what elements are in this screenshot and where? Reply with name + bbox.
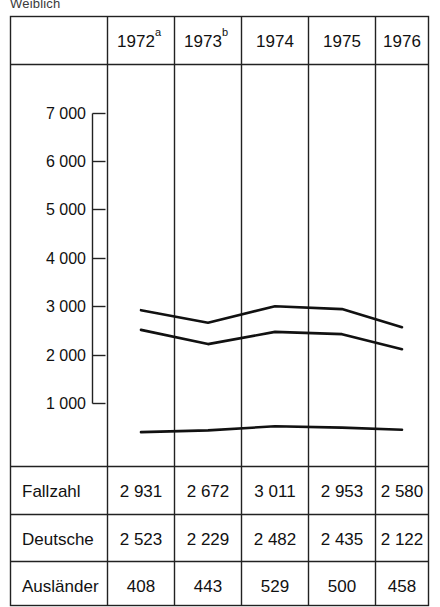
table-row-auslaender: 408 443 529 500 458 xyxy=(127,577,416,596)
header-year-1975: 1975 xyxy=(323,32,361,51)
cell-fallzahl-1976: 2 580 xyxy=(381,482,424,501)
cell-auslaender-1972: 408 xyxy=(127,577,155,596)
cell-fallzahl-1973: 2 672 xyxy=(187,482,230,501)
cell-deutsche-1972: 2 523 xyxy=(120,530,163,549)
header-year-1974: 1974 xyxy=(256,32,294,51)
row-label-fallzahl: Fallzahl xyxy=(22,482,81,501)
series-line-fallzahl xyxy=(141,306,402,327)
cell-auslaender-1975: 500 xyxy=(328,577,356,596)
cell-auslaender-1976: 458 xyxy=(388,577,416,596)
cell-deutsche-1975: 2 435 xyxy=(321,530,364,549)
y-label-2000: 2 000 xyxy=(46,347,86,364)
y-label-5000: 5 000 xyxy=(46,201,86,218)
chart-y-tick-labels: 7 000 6 000 5 000 4 000 3 000 2 000 1 00… xyxy=(46,105,86,412)
header-year-1973: 1973 xyxy=(184,32,222,51)
y-label-3000: 3 000 xyxy=(46,298,86,315)
header-footnote-1972: a xyxy=(155,26,162,38)
table-row-deutsche: 2 523 2 229 2 482 2 435 2 122 xyxy=(120,530,424,549)
cell-auslaender-1974: 529 xyxy=(261,577,289,596)
chart-y-axis xyxy=(93,114,106,404)
header-footnote-1973: b xyxy=(222,26,228,38)
cell-fallzahl-1974: 3 011 xyxy=(254,482,295,501)
chart-series-lines xyxy=(141,306,402,432)
y-label-4000: 4 000 xyxy=(46,250,86,267)
figure-canvas: 1972 a 1973 b 1974 1975 1976 7 000 6 000… xyxy=(0,0,440,607)
cell-fallzahl-1975: 2 953 xyxy=(321,482,364,501)
y-label-7000: 7 000 xyxy=(46,105,86,122)
cell-deutsche-1973: 2 229 xyxy=(187,530,230,549)
header-year-1976: 1976 xyxy=(383,32,421,51)
table-row-labels: Fallzahl Deutsche Ausländer xyxy=(22,482,99,596)
header-year-1972: 1972 xyxy=(117,32,155,51)
cell-auslaender-1973: 443 xyxy=(194,577,222,596)
y-label-6000: 6 000 xyxy=(46,153,86,170)
y-label-1000: 1 000 xyxy=(46,395,86,412)
row-label-deutsche: Deutsche xyxy=(22,530,94,549)
cell-deutsche-1974: 2 482 xyxy=(254,530,297,549)
series-line-auslaender xyxy=(141,426,402,432)
cell-fallzahl-1972: 2 931 xyxy=(120,482,163,501)
cell-deutsche-1976: 2 122 xyxy=(381,530,424,549)
statistics-figure: Weiblich 1972 a 1973 b 1974 1 xyxy=(0,0,440,607)
row-label-auslaender: Ausländer xyxy=(22,577,99,596)
table-row-fallzahl: 2 931 2 672 3 011 2 953 2 580 xyxy=(120,482,424,501)
series-line-deutsche xyxy=(141,330,402,349)
